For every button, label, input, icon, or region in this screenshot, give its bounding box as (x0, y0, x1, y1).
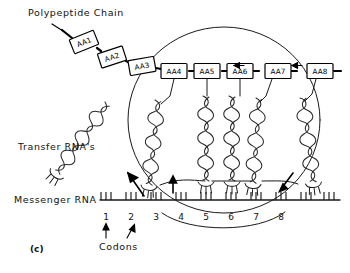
codon-number: 5 (203, 212, 209, 222)
amino-acid-aa8: AA8 (307, 64, 333, 79)
trna-bound-codon6 (224, 79, 240, 194)
amino-acid-label: AA7 (270, 67, 285, 76)
amino-acid-label: AA4 (166, 67, 181, 76)
codons-pointer-arrow-2 (127, 225, 135, 239)
messenger-rna-strand (100, 192, 340, 200)
trna-bound-codon7 (244, 79, 272, 197)
panel-label: (c) (30, 244, 44, 254)
amino-acid-label: AA8 (312, 67, 327, 76)
codon-number: 4 (178, 212, 184, 222)
codon-number: 3 (153, 212, 159, 222)
amino-acid-label: AA6 (232, 67, 247, 76)
trna-bound-codon5 (198, 79, 214, 194)
trna-foot-connector (160, 180, 298, 185)
transfer-rna-label: Transfer RNA's (17, 141, 95, 152)
amino-acid-aa1: AA1 (69, 30, 99, 54)
mrna-codon-ticks (101, 192, 334, 200)
codons-pointer-arrow-1 (103, 224, 109, 239)
trna-bound-codon3 (140, 79, 174, 199)
messenger-rna-label: Messenger RNA (14, 194, 97, 205)
amino-acid-aa7: AA7 (265, 64, 291, 79)
polypeptide-chain-label: Polypeptide Chain (28, 7, 124, 18)
codons-pointer-arrows (103, 224, 135, 239)
codon-number: 6 (228, 212, 234, 222)
codon-number: 2 (128, 212, 134, 222)
ribosome-outline (128, 27, 320, 213)
codons-label: Codons (99, 241, 138, 252)
codon-number-labels: 1 2 3 4 5 6 7 8 (103, 212, 284, 222)
amino-acid-aa2: AA2 (97, 46, 126, 68)
amino-acid-aa4: AA4 (161, 64, 187, 79)
protein-synthesis-figure: AA1 AA2 AA3 AA4 AA5 AA6 (0, 0, 350, 273)
amino-acid-aa3: AA3 (128, 56, 156, 75)
translation-diagram-canvas: AA1 AA2 AA3 AA4 AA5 AA6 (0, 0, 350, 273)
polypeptide-leader-line (52, 24, 63, 31)
codon-number: 1 (103, 212, 109, 222)
amino-acid-label: AA5 (199, 67, 214, 76)
trna-bind-arrow-icon (170, 176, 177, 193)
codon-number: 7 (253, 212, 259, 222)
amino-acid-aa5: AA5 (194, 64, 220, 79)
